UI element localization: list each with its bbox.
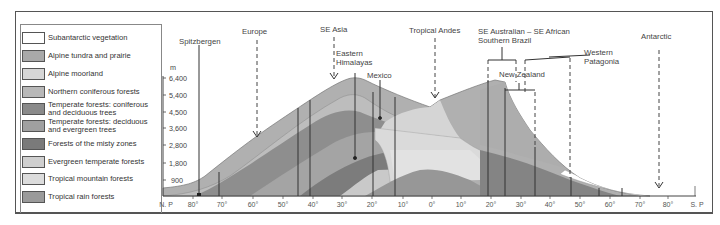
x-tick-label: 20°	[486, 201, 497, 208]
y-tick-label: 1,800	[169, 159, 187, 168]
x-tick-label: 60°	[248, 201, 259, 208]
x-tick-label: 0°	[429, 201, 436, 208]
y-tick-label: 4,500	[169, 108, 187, 117]
label-new-zealand: New Zealand	[499, 70, 545, 79]
x-tick-label: 70°	[217, 201, 228, 208]
label-europe: Europe	[242, 27, 267, 36]
label-line: Patagonia	[584, 57, 619, 66]
label-line: Himalayas	[336, 58, 372, 67]
x-tick-label: 60°	[605, 201, 616, 208]
y-tick-label: 6,400	[169, 74, 187, 83]
x-tick-label: 30°	[337, 201, 348, 208]
x-tick-label: 40°	[545, 201, 556, 208]
x-tick-label: 10°	[456, 201, 467, 208]
x-tick-label: 70°	[635, 201, 646, 208]
patagonia-bracket	[525, 55, 590, 60]
x-tick-label: 50°	[575, 201, 586, 208]
x-tick-label: N. P	[159, 201, 173, 208]
label-antarctic: Antarctic	[641, 32, 671, 41]
x-tick-label: 20°	[367, 201, 378, 208]
se-australian-bracket	[488, 47, 516, 60]
vegetation-profile	[0, 0, 720, 225]
new-zealand-bracket	[505, 83, 535, 90]
y-tick-label: 900	[171, 176, 183, 185]
label-line: Southern Brazil	[478, 36, 531, 45]
x-tick-label: 10°	[398, 201, 409, 208]
x-tick-label: S. P	[690, 201, 703, 208]
x-tick-label: 40°	[308, 201, 319, 208]
label-eastern-himalayas: EasternHimalayas	[336, 49, 372, 67]
x-tick-label: 80°	[663, 201, 674, 208]
label-line: Western	[584, 48, 613, 57]
label-line: Eastern	[336, 49, 363, 58]
label-spitzbergen: Spitzbergen	[179, 37, 221, 46]
x-tick-label: 50°	[278, 201, 289, 208]
label-mexico: Mexico	[367, 71, 392, 80]
label-western-patagonia: WesternPatagonia	[584, 48, 619, 66]
label-se-australian: SE Australian – SE AfricanSouthern Brazi…	[478, 27, 570, 45]
y-axis-unit: m	[170, 63, 176, 72]
x-tick-label: 80°	[188, 201, 199, 208]
y-tick-label: 3,600	[169, 124, 187, 133]
label-line: SE Australian – SE African	[478, 27, 570, 36]
y-tick-label: 2,800	[169, 141, 187, 150]
y-tick-label: 5,400	[169, 91, 187, 100]
label-se-asia: SE Asia	[320, 25, 347, 34]
x-tick-label: 30°	[516, 201, 527, 208]
label-tropical-andes: Tropical Andes	[409, 26, 460, 35]
